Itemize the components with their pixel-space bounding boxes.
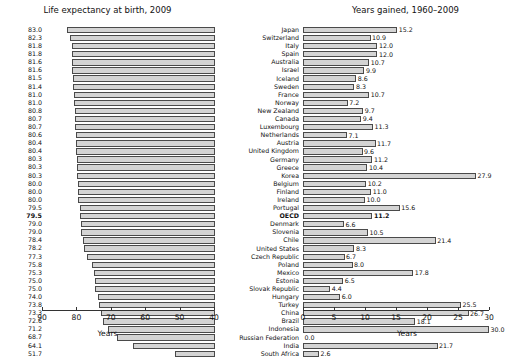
life-expectancy-row: 77.3: [0, 253, 215, 261]
country-label: Japan: [215, 26, 303, 34]
bar-track: [43, 278, 215, 284]
axis-tick: [365, 307, 366, 310]
life-expectancy-value-label: 80.6: [0, 132, 43, 138]
life-expectancy-value-label: 81.8: [0, 51, 43, 57]
life-expectancy-row: 81.6: [0, 58, 215, 66]
years-gained-bar: [303, 270, 413, 276]
bar-track: [43, 197, 215, 203]
life-expectancy-bar: [83, 237, 215, 243]
life-expectancy-row: 80.0: [0, 180, 215, 188]
years-gained-row: 10.9: [303, 34, 511, 42]
life-expectancy-row: 80.4: [0, 147, 215, 155]
years-gained-value-label: 27.9: [476, 172, 492, 180]
bar-track: [43, 84, 215, 90]
bar-track: 7.1: [303, 132, 489, 138]
life-expectancy-row: 81.8: [0, 42, 215, 50]
bar-track: 11.7: [303, 140, 489, 146]
life-expectancy-bar: [67, 27, 215, 33]
years-gained-bar: [303, 302, 461, 308]
country-label: Spain: [215, 50, 303, 58]
life-expectancy-value-label: 83.0: [0, 27, 43, 33]
life-expectancy-bar: [77, 173, 216, 179]
life-expectancy-row: 80.0: [0, 196, 215, 204]
years-gained-row: 6.5: [303, 277, 511, 285]
life-expectancy-bar: [76, 132, 216, 138]
years-gained-bar: [303, 221, 344, 227]
country-label: Korea: [215, 172, 303, 180]
years-gained-value-label: 10.5: [368, 229, 384, 237]
years-gained-bar: [303, 205, 400, 211]
bar-track: [43, 254, 215, 260]
axis-tick-label: 30: [484, 313, 494, 322]
left-chart-title: Life expectancy at birth, 2009: [0, 5, 215, 15]
axis-tick-label: 50: [175, 313, 185, 322]
years-gained-row: 8.6: [303, 75, 511, 83]
life-expectancy-row: 78.4: [0, 236, 215, 244]
years-gained-bar: [303, 67, 364, 73]
bar-track: 9.6: [303, 148, 489, 154]
bar-track: [43, 229, 215, 235]
bar-track: 6.0: [303, 294, 489, 300]
life-expectancy-row: 81.8: [0, 50, 215, 58]
bar-track: 8.0: [303, 262, 489, 268]
bar-track: [43, 173, 215, 179]
years-gained-value-label: 17.8: [413, 269, 429, 277]
axis-tick-label: 70: [106, 313, 116, 322]
bar-track: [43, 148, 215, 154]
bar-track: 9.4: [303, 116, 489, 122]
axis-tick: [76, 307, 77, 310]
country-label: Hungary: [215, 293, 303, 301]
left-x-axis: 908070605040: [42, 310, 214, 330]
country-label: Sweden: [215, 83, 303, 91]
years-gained-value-label: 7.2: [348, 99, 360, 107]
country-label: Netherlands: [215, 131, 303, 139]
country-label: South Africa: [215, 350, 303, 358]
life-expectancy-value-label: 79.5: [0, 205, 43, 211]
country-label: Poland: [215, 261, 303, 269]
years-gained-value-label: 15.6: [400, 204, 416, 212]
bar-track: [43, 124, 215, 130]
years-gained-row: 10.7: [303, 58, 511, 66]
bar-track: 9.9: [303, 67, 489, 73]
life-expectancy-row: 80.3: [0, 156, 215, 164]
life-expectancy-row: 79.0: [0, 228, 215, 236]
years-gained-bar: [303, 351, 319, 357]
life-expectancy-value-label: 80.4: [0, 140, 43, 146]
life-expectancy-row: 80.0: [0, 188, 215, 196]
years-gained-value-label: 10.7: [369, 91, 385, 99]
life-expectancy-value-label: 81.8: [0, 43, 43, 49]
years-gained-row: 17.8: [303, 269, 511, 277]
axis-tick-label: 0: [301, 313, 306, 322]
bar-track: [43, 221, 215, 227]
life-expectancy-row: 80.3: [0, 164, 215, 172]
life-expectancy-bar: [84, 245, 215, 251]
axis-tick: [145, 307, 146, 310]
life-expectancy-bar: [76, 140, 215, 146]
axis-line: [42, 310, 214, 311]
bar-track: 10.4: [303, 164, 489, 170]
life-expectancy-value-label: 80.3: [0, 173, 43, 179]
country-label: China: [215, 309, 303, 317]
bar-track: 21.4: [303, 237, 489, 243]
years-gained-value-label: 21.7: [438, 342, 454, 350]
bar-track: 8.3: [303, 245, 489, 251]
axis-tick: [214, 307, 215, 310]
life-expectancy-bar: [175, 351, 215, 357]
life-expectancy-bar: [75, 108, 215, 114]
bar-track: [43, 67, 215, 73]
years-gained-value-label: 9.7: [363, 107, 375, 115]
left-x-axis-title: Years: [0, 329, 215, 338]
bar-track: [43, 245, 215, 251]
bar-track: 15.2: [303, 27, 489, 33]
life-expectancy-row: 79.5: [0, 204, 215, 212]
years-gained-bar: [303, 27, 397, 33]
life-expectancy-bar: [73, 84, 215, 90]
life-expectancy-row: 80.7: [0, 123, 215, 131]
bar-track: [43, 100, 215, 106]
country-label: Iceland: [215, 75, 303, 83]
years-gained-row: 11.2: [303, 156, 511, 164]
country-label: Greece: [215, 164, 303, 172]
years-gained-bar: [303, 262, 353, 268]
axis-tick-label: 80: [72, 313, 82, 322]
bar-track: 6.5: [303, 278, 489, 284]
